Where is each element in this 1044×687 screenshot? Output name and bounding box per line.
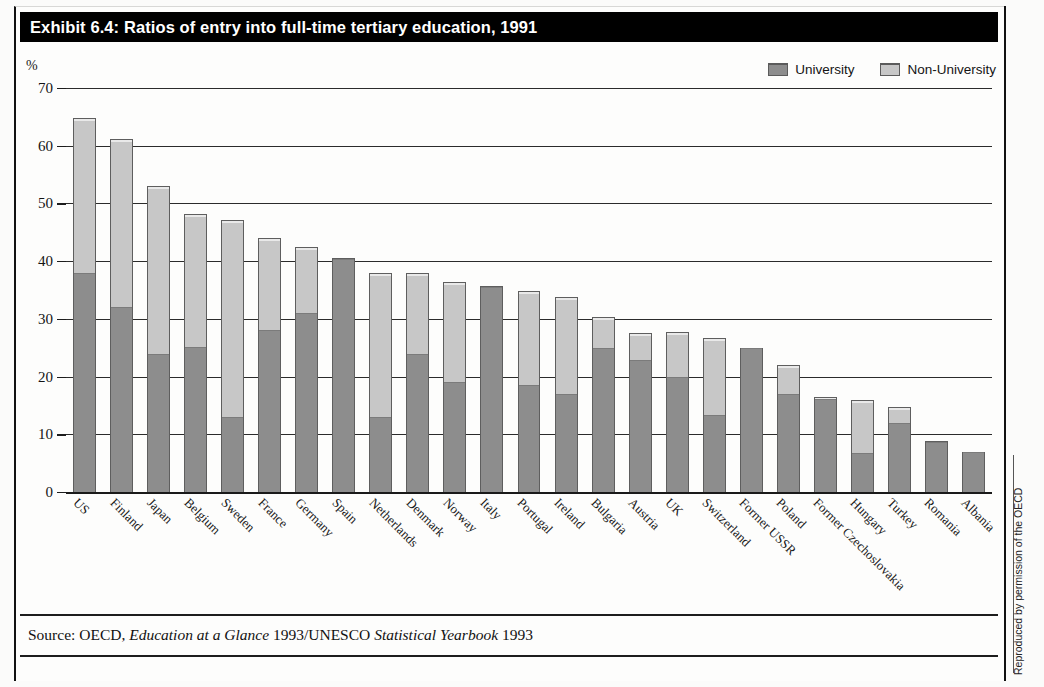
x-axis-tick-label: UK	[662, 495, 687, 520]
bar-segment-university[interactable]	[296, 313, 317, 492]
bar-stack-non-university[interactable]	[814, 397, 837, 492]
page-canvas: Exhibit 6.4: Ratios of entry into full-t…	[0, 0, 1044, 687]
bar-segment-university[interactable]	[185, 347, 206, 492]
bar-stack-non-university[interactable]	[184, 214, 207, 492]
bar-segment-university[interactable]	[556, 394, 577, 492]
bar-group[interactable]	[592, 88, 615, 492]
bar-stack-non-university[interactable]	[221, 220, 244, 492]
bar-group[interactable]	[369, 88, 392, 492]
bar-stack-non-university[interactable]	[888, 407, 911, 492]
y-axis-tick-label: 60	[38, 137, 53, 154]
bar-top-highlight	[704, 339, 725, 341]
bar-segment-university[interactable]	[889, 423, 910, 492]
x-axis-tick-label: France	[254, 495, 290, 531]
legend-item-university: University	[768, 62, 854, 77]
bar-group[interactable]	[925, 88, 948, 492]
bar-stack-non-university[interactable]	[962, 452, 985, 492]
bar-group[interactable]	[406, 88, 429, 492]
bar-stack-non-university[interactable]	[555, 297, 578, 492]
bar-segment-university[interactable]	[111, 307, 132, 492]
axis-baseline	[66, 492, 992, 494]
bar-segment-university[interactable]	[704, 415, 725, 492]
source-title-italic: Education at a Glance	[129, 626, 269, 643]
bar-stack-non-university[interactable]	[369, 273, 392, 492]
bar-stack-non-university[interactable]	[740, 348, 763, 492]
bar-stack-non-university[interactable]	[295, 247, 318, 492]
bar-segment-university[interactable]	[481, 287, 502, 492]
bar-stack-non-university[interactable]	[406, 273, 429, 492]
bar-group[interactable]	[777, 88, 800, 492]
bar-segment-university[interactable]	[259, 330, 280, 492]
bar-group[interactable]	[443, 88, 466, 492]
bar-group[interactable]	[666, 88, 689, 492]
y-axis-tick-label: 50	[38, 195, 53, 212]
bar-segment-university[interactable]	[630, 360, 651, 492]
bar-stack-non-university[interactable]	[147, 186, 170, 492]
bar-stack-non-university[interactable]	[592, 317, 615, 492]
bar-segment-university[interactable]	[741, 348, 762, 492]
bar-segment-university[interactable]	[148, 354, 169, 493]
bar-top-highlight	[889, 408, 910, 410]
x-axis-tick-label: US	[69, 495, 92, 518]
bar-segment-university[interactable]	[333, 259, 354, 492]
bar-group[interactable]	[480, 88, 503, 492]
bar-stack-non-university[interactable]	[925, 441, 948, 492]
bar-segment-university[interactable]	[370, 417, 391, 492]
x-axis-labels: USFinlandJapanBelgiumSwedenFranceGermany…	[66, 495, 992, 615]
bar-group[interactable]	[814, 88, 837, 492]
x-axis-tick-label: Germany	[291, 495, 337, 541]
bar-segment-university[interactable]	[963, 452, 984, 492]
bar-group[interactable]	[740, 88, 763, 492]
bar-stack-non-university[interactable]	[629, 333, 652, 492]
bar-group[interactable]	[184, 88, 207, 492]
bar-segment-university[interactable]	[852, 453, 873, 492]
bar-segment-university[interactable]	[593, 348, 614, 492]
bar-stack-non-university[interactable]	[73, 118, 96, 492]
bar-group[interactable]	[962, 88, 985, 492]
bar-stack-non-university[interactable]	[666, 332, 689, 492]
bar-segment-university[interactable]	[222, 417, 243, 492]
y-axis-tick-label: 10	[38, 426, 53, 443]
bar-stack-non-university[interactable]	[443, 282, 466, 492]
bar-stack-non-university[interactable]	[480, 286, 503, 492]
bar-segment-university[interactable]	[778, 394, 799, 492]
bar-group[interactable]	[73, 88, 96, 492]
bar-top-highlight	[222, 221, 243, 223]
bar-stack-non-university[interactable]	[851, 400, 874, 492]
bar-group[interactable]	[555, 88, 578, 492]
bar-group[interactable]	[258, 88, 281, 492]
bar-segment-university[interactable]	[74, 273, 95, 492]
bar-segment-university[interactable]	[667, 377, 688, 492]
bar-top-highlight	[370, 274, 391, 276]
bar-group[interactable]	[332, 88, 355, 492]
x-axis-tick-label: Austria	[625, 495, 663, 533]
bar-group[interactable]	[851, 88, 874, 492]
bar-segment-university[interactable]	[444, 382, 465, 492]
source-text: Source: OECD,	[28, 626, 129, 643]
bar-stack-non-university[interactable]	[258, 238, 281, 492]
bar-segment-university[interactable]	[815, 399, 836, 492]
bar-stack-non-university[interactable]	[777, 365, 800, 492]
bar-top-highlight	[259, 239, 280, 241]
bar-stack-non-university[interactable]	[110, 139, 133, 492]
bar-group[interactable]	[703, 88, 726, 492]
bar-group[interactable]	[888, 88, 911, 492]
chart-legend: University Non-University	[768, 62, 996, 77]
legend-label-university: University	[795, 62, 854, 77]
bar-stack-non-university[interactable]	[518, 291, 541, 492]
bar-group[interactable]	[629, 88, 652, 492]
bar-group[interactable]	[110, 88, 133, 492]
bar-segment-university[interactable]	[926, 442, 947, 492]
bar-stack-non-university[interactable]	[332, 258, 355, 492]
bar-segment-university[interactable]	[407, 354, 428, 493]
bar-top-highlight	[74, 119, 95, 121]
bar-stack-non-university[interactable]	[703, 338, 726, 492]
bar-segment-university[interactable]	[519, 385, 540, 492]
bar-group[interactable]	[295, 88, 318, 492]
y-axis-tick-mark	[57, 88, 66, 89]
bar-group[interactable]	[221, 88, 244, 492]
bar-group[interactable]	[518, 88, 541, 492]
y-axis-tick-label: 40	[38, 253, 53, 270]
bar-top-highlight	[111, 140, 132, 142]
bar-group[interactable]	[147, 88, 170, 492]
